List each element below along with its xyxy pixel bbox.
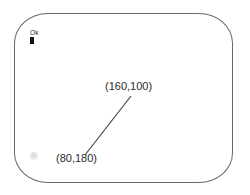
- ok-status-cluster: Ok: [30, 29, 54, 44]
- ok-status-label: Ok: [30, 29, 54, 36]
- ok-status-marker-icon: [30, 37, 34, 44]
- faint-corner-marker-icon: [30, 152, 38, 160]
- coordinate-label-lower: (80,180): [56, 152, 97, 165]
- coordinate-label-upper: (160,100): [105, 80, 152, 93]
- screen-root: Ok (160,100) (80,180): [0, 0, 250, 195]
